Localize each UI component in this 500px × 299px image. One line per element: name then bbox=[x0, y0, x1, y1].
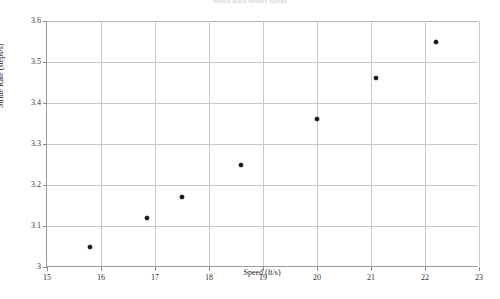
y-axis-tick-label: 3.4 bbox=[9, 98, 41, 107]
data-point bbox=[180, 195, 184, 199]
gridline-vertical bbox=[263, 21, 264, 266]
y-axis-label: Stride Rate (steps/s) bbox=[0, 44, 5, 108]
gridline-vertical bbox=[101, 21, 102, 266]
y-axis-tick-label: 3.1 bbox=[9, 221, 41, 230]
data-point bbox=[88, 245, 92, 249]
gridline-vertical bbox=[371, 21, 372, 266]
gridline-vertical bbox=[425, 21, 426, 266]
x-axis-label: Speed (ft/s) bbox=[46, 268, 478, 277]
y-axis-tick bbox=[43, 226, 47, 227]
data-point bbox=[315, 117, 319, 121]
chart-title: Stride Rate versus Speed bbox=[0, 0, 500, 5]
gridline-vertical bbox=[479, 21, 480, 266]
scatter-chart: Stride Rate versus Speed 151617181920212… bbox=[0, 0, 500, 299]
y-axis-tick-label: 3.5 bbox=[9, 57, 41, 66]
data-point bbox=[145, 216, 149, 220]
y-axis-tick bbox=[43, 103, 47, 104]
gridline-vertical bbox=[317, 21, 318, 266]
y-axis-tick-label: 3.2 bbox=[9, 180, 41, 189]
y-axis-tick bbox=[43, 185, 47, 186]
data-point bbox=[434, 40, 438, 44]
gridline-vertical bbox=[209, 21, 210, 266]
y-axis-tick-label: 3.6 bbox=[9, 16, 41, 25]
x-axis-tick bbox=[479, 267, 480, 271]
y-axis-tick-label: 3.3 bbox=[9, 139, 41, 148]
data-point bbox=[374, 76, 378, 80]
y-axis-tick bbox=[43, 62, 47, 63]
gridline-vertical bbox=[155, 21, 156, 266]
data-point bbox=[239, 163, 243, 167]
y-axis-tick bbox=[43, 144, 47, 145]
plot-area: 151617181920212223 33.13.23.33.43.53.6 bbox=[46, 21, 478, 267]
y-axis-tick-label: 3 bbox=[9, 262, 41, 271]
y-axis-tick bbox=[43, 21, 47, 22]
